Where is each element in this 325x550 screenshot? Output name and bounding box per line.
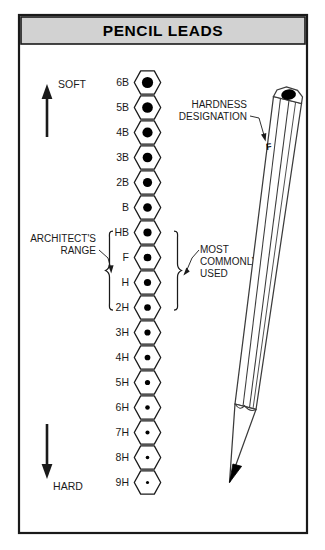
lead-grade-label: 5B <box>116 101 129 113</box>
lead-core-dot <box>144 304 151 311</box>
most-commonly-used-label-line3: USED <box>200 268 228 279</box>
hardness-designation-label-line1: HARDNESS <box>191 99 247 110</box>
page-title: PENCIL LEADS <box>103 22 224 39</box>
lead-grade-label: 2B <box>116 176 129 188</box>
lead-core-dot <box>143 178 152 187</box>
lead-core-dot <box>146 456 150 460</box>
lead-grade-label: 6B <box>116 76 129 88</box>
lead-core-dot <box>143 153 153 163</box>
lead-core-dot <box>142 77 153 88</box>
lead-grade-label: B <box>122 201 129 213</box>
lead-core-dot <box>142 102 153 113</box>
diagram-canvas: PENCIL LEADS SOFT HARD 6B5B4B3B2BBHBFH2H… <box>0 0 325 550</box>
lead-grade-column: 6B5B4B3B2BBHBFH2H3H4H5H6H7H8H9H <box>114 71 160 494</box>
lead-grade-label: 4H <box>116 351 129 363</box>
lead-grade-label: 3H <box>116 326 129 338</box>
lead-core-dot <box>145 355 151 361</box>
lead-grade-label: HB <box>114 226 129 238</box>
lead-grade-label: 6H <box>116 401 129 413</box>
lead-core-dot <box>144 279 151 286</box>
lead-grade-label: F <box>123 251 129 263</box>
lead-grade-label: 2H <box>116 301 129 313</box>
pencil-leads-diagram: PENCIL LEADS SOFT HARD 6B5B4B3B2BBHBFH2H… <box>0 0 325 550</box>
lead-core-dot <box>143 228 151 236</box>
architects-range-label-line2: RANGE <box>60 245 96 256</box>
lead-grade-label: H <box>121 276 129 288</box>
lead-grade-label: 3B <box>116 151 129 163</box>
lead-grade-label: 4B <box>116 126 129 138</box>
hard-label: HARD <box>53 480 83 492</box>
lead-core-dot <box>143 203 152 212</box>
lead-core-dot <box>144 329 150 335</box>
lead-core-dot <box>145 405 150 410</box>
most-commonly-used-label-line2: COMMONLY <box>200 256 258 267</box>
lead-core-dot <box>144 254 152 262</box>
lead-grade-label: 5H <box>116 376 129 388</box>
lead-grade-label: 8H <box>116 451 129 463</box>
soft-label: SOFT <box>58 78 87 90</box>
lead-grade-label: 9H <box>116 476 129 488</box>
lead-core-dot <box>145 380 150 385</box>
architects-range-label-line1: ARCHITECT'S <box>30 233 96 244</box>
lead-core-dot <box>145 430 149 434</box>
lead-core-dot <box>146 481 149 484</box>
most-commonly-used-label-line1: MOST <box>200 244 229 255</box>
lead-core-dot <box>142 127 152 137</box>
hardness-designation-label-line2: DESIGNATION <box>179 111 247 122</box>
lead-grade-label: 7H <box>116 426 129 438</box>
